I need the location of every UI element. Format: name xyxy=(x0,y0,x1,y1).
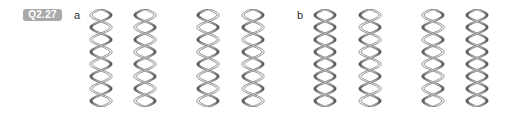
question-label-badge: Q2.27 xyxy=(23,9,62,21)
dna-helix-icon xyxy=(420,9,446,107)
dna-helix-icon xyxy=(195,9,221,107)
dna-helix-icon xyxy=(240,9,266,107)
dna-helix-icon xyxy=(132,9,158,107)
dna-helix-icon xyxy=(88,9,114,107)
dna-helix-icon xyxy=(312,9,338,107)
dna-helix-icon xyxy=(464,9,490,107)
part-a-label: a xyxy=(74,9,80,21)
dna-helix-icon xyxy=(357,9,383,107)
part-b-label: b xyxy=(297,9,303,21)
